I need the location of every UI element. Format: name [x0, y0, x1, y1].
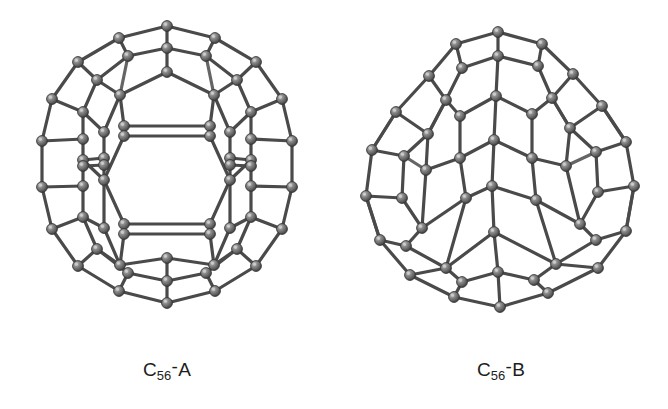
fullerene-isomer-figure: C56-A [0, 0, 668, 409]
caption-subscript: 56 [157, 368, 171, 383]
molecule-model-c56-a [0, 0, 334, 360]
panel-c56-a: C56-A [0, 0, 334, 409]
molecule-model-c56-b [334, 0, 668, 360]
caption-element: C [477, 359, 491, 380]
caption-c56-b: C56-B [334, 356, 668, 383]
caption-isomer: B [512, 359, 525, 380]
panel-c56-b: C56-B [334, 0, 668, 409]
caption-subscript: 56 [491, 368, 505, 383]
caption-element: C [143, 359, 157, 380]
caption-isomer: A [178, 359, 191, 380]
caption-c56-a: C56-A [0, 356, 334, 383]
